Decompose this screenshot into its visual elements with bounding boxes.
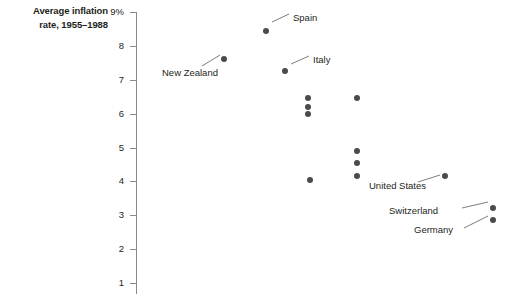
data-point-6[interactable] [305, 111, 311, 117]
chart-canvas: Average inflation rate, 1955–1988 9%8765… [0, 0, 511, 294]
data-point-10[interactable] [307, 177, 313, 183]
point-label-germany: Germany [414, 224, 453, 235]
point-label-switzerland: Switzerland [389, 205, 438, 216]
leader-line-switzerland [462, 202, 488, 208]
data-point-8[interactable] [354, 160, 360, 166]
data-point-7[interactable] [354, 148, 360, 154]
leader-line-germany [464, 216, 488, 228]
point-label-italy: Italy [313, 54, 330, 65]
leader-line-italy [291, 56, 309, 64]
data-point-5[interactable] [305, 104, 311, 110]
data-point-spain[interactable] [263, 28, 269, 34]
point-label-spain: Spain [293, 12, 317, 23]
point-label-new-zealand: New Zealand [162, 67, 218, 78]
leader-line-new-zealand [202, 55, 220, 66]
leader-line-spain [272, 14, 289, 22]
point-label-united-states: United States [369, 180, 426, 191]
leader-lines [0, 0, 511, 294]
